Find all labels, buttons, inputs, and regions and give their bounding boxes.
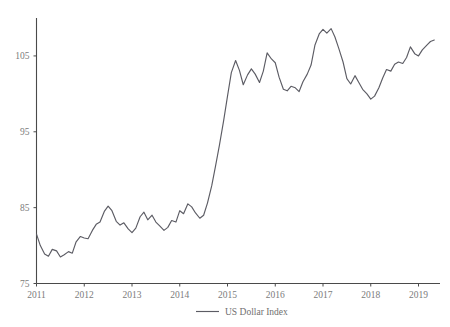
y-axis: 758595105 <box>15 18 36 289</box>
x-tick-label: 2017 <box>314 290 333 300</box>
x-axis: 201120122013201420152016201720182019 <box>27 284 440 300</box>
x-tick-label: 2019 <box>409 290 428 300</box>
y-tick-labels: 758595105 <box>15 51 30 289</box>
x-tick-label: 2015 <box>218 290 237 300</box>
x-tick-label: 2018 <box>361 290 380 300</box>
x-tick-label: 2014 <box>170 290 189 300</box>
plot-area <box>37 29 435 257</box>
y-tick-label: 75 <box>20 279 30 289</box>
us-dollar-index-line-chart: 758595105 201120122013201420152016201720… <box>0 0 450 327</box>
x-tick-label: 2016 <box>266 290 285 300</box>
x-tick-label: 2013 <box>123 290 142 300</box>
series-line-us-dollar-index <box>37 29 435 257</box>
legend-label-us-dollar-index: US Dollar Index <box>225 307 288 317</box>
x-tick-label: 2011 <box>27 290 46 300</box>
x-tick-label: 2012 <box>75 290 94 300</box>
chart-canvas: 758595105 201120122013201420152016201720… <box>0 0 450 327</box>
legend: US Dollar Index <box>196 307 288 317</box>
y-tick-label: 105 <box>15 51 30 61</box>
x-tick-labels: 201120122013201420152016201720182019 <box>27 290 428 300</box>
y-tick-label: 85 <box>20 203 30 213</box>
y-tick-label: 95 <box>20 127 30 137</box>
